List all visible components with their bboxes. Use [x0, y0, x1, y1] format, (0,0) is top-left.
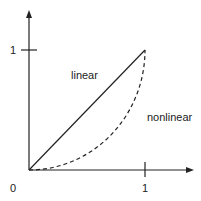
linear-label: linear [71, 69, 98, 81]
x-tick-label-1: 1 [142, 182, 148, 194]
linear-vs-nonlinear-diagram: 1 1 0 linear nonlinear [0, 0, 201, 201]
nonlinear-label: nonlinear [147, 111, 193, 123]
linear-line [29, 50, 145, 170]
y-tick-label-1: 1 [10, 44, 16, 56]
origin-label: 0 [10, 182, 16, 194]
